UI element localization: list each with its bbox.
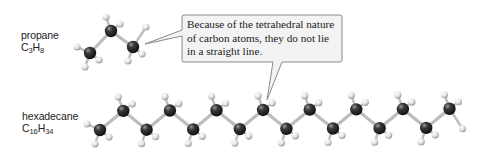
hydrogen-atom <box>138 50 145 57</box>
hydrogen-atom <box>441 91 448 98</box>
hydrogen-atom <box>199 133 206 140</box>
carbon-atom <box>127 41 139 53</box>
carbon-atom <box>443 103 455 115</box>
hydrogen-atom <box>95 56 102 63</box>
hydrogen-atom <box>73 43 80 50</box>
hydrogen-atom <box>394 91 401 98</box>
hydrogen-atom <box>222 100 229 107</box>
carbon-atom <box>94 124 106 136</box>
carbon-atom <box>304 103 316 115</box>
hydrogen-atom <box>408 98 415 105</box>
hydrogen-atom <box>152 133 159 140</box>
hydrogen-atom <box>175 100 182 107</box>
hydrogen-atom <box>324 139 331 146</box>
hydrogen-atom <box>124 57 131 64</box>
hydrogen-atom <box>432 131 439 138</box>
carbon-atom <box>257 104 269 116</box>
carbon-atom <box>397 103 409 115</box>
hydrogen-atom <box>385 132 392 139</box>
callout-text: Because of the tetrahedral nature of car… <box>187 18 339 59</box>
carbon-atom <box>105 25 117 37</box>
hydrogen-atom <box>102 13 109 20</box>
hydrogen-atom <box>208 93 215 100</box>
hydrogen-atom <box>83 120 90 127</box>
carbon-atom <box>327 122 339 134</box>
carbon-atom <box>117 105 129 117</box>
hydrogen-atom <box>115 93 122 100</box>
hydrogen-atom <box>255 92 262 99</box>
hydrogen-atom <box>138 140 145 147</box>
hydrogen-atom <box>91 140 98 147</box>
hydrogen-atom <box>129 100 136 107</box>
hydrogen-atom <box>105 133 112 140</box>
hydrogen-atom <box>362 99 369 106</box>
carbon-atom <box>164 104 176 116</box>
hydrogen-atom <box>185 140 192 147</box>
carbon-atom <box>84 47 96 59</box>
hydrogen-atom <box>371 139 378 146</box>
hydrogen-atom <box>269 99 276 106</box>
hydrogen-atom <box>455 98 462 105</box>
hydrogen-atom <box>231 140 238 147</box>
carbon-atom <box>373 122 385 134</box>
hydrogen-atom <box>301 92 308 99</box>
hydrogen-atom <box>278 139 285 146</box>
hydrogen-atom <box>142 23 149 30</box>
hydrogen-atom <box>292 132 299 139</box>
carbon-atom <box>140 124 152 136</box>
hydrogen-atom <box>245 133 252 140</box>
carbon-atom <box>210 104 222 116</box>
hydrogen-atom <box>116 20 123 27</box>
hydrogen-atom <box>315 99 322 106</box>
hydrogen-atom <box>459 125 466 132</box>
carbon-atom <box>350 103 362 115</box>
carbon-atom <box>280 123 292 135</box>
carbon-atom <box>234 123 246 135</box>
hydrogen-atom <box>418 138 425 145</box>
carbon-atom <box>420 122 432 134</box>
hydrogen-atom <box>81 63 88 70</box>
hydrogen-atom <box>161 93 168 100</box>
hydrogen-atom <box>338 132 345 139</box>
hydrogen-atom <box>348 92 355 99</box>
carbon-atom <box>187 123 199 135</box>
